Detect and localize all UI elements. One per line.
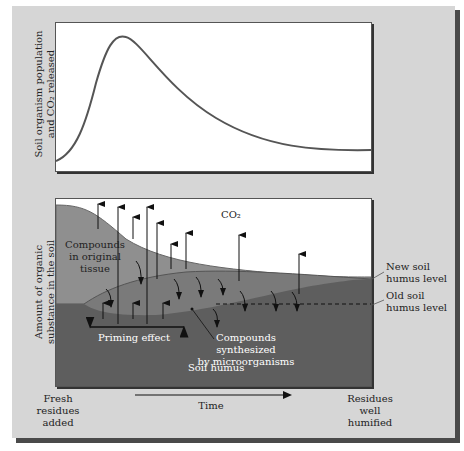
organism-population-chart [55,22,372,172]
old-humus-level-label: Old soil humus level [386,290,447,314]
soil-humus-label: Soil humus [188,362,244,374]
priming-effect-label: Priming effect [98,332,170,344]
time-axis-label: Time [196,400,226,412]
organic-substance-chart: CO₂ Compounds in original tissue Priming… [55,198,372,387]
co2-label: CO₂ [221,209,241,221]
panel-shadow-right [455,10,460,443]
x-axis-end-label: Residues well humified [340,393,400,429]
x-axis-start-label: Fresh residues added [28,393,88,429]
compounds-original-label: Compounds in original tissue [60,239,130,275]
population-curve [56,23,371,171]
panel-shadow-bottom [16,438,460,443]
bottom-chart-ylabel: Amount of organic substance in the soil [33,222,57,362]
new-humus-level-label: New soil humus level [386,261,447,285]
top-chart-ylabel: Soil organism population and CO₂ release… [33,19,57,169]
